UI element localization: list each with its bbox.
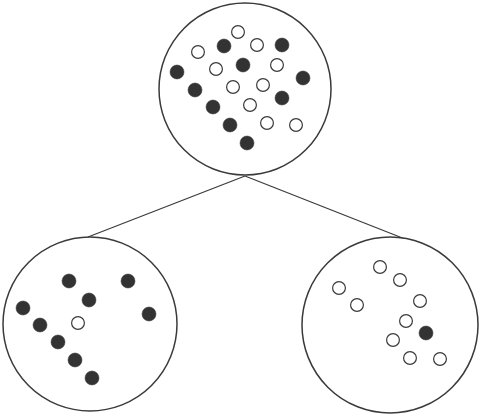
filled-point-icon <box>236 58 250 72</box>
node-right-child <box>302 237 478 413</box>
open-point-icon <box>72 317 85 330</box>
filled-point-icon <box>85 371 99 385</box>
open-point-icon <box>404 352 417 365</box>
open-point-icon <box>251 39 264 52</box>
node-root <box>159 3 331 175</box>
filled-point-icon <box>296 71 310 85</box>
open-point-icon <box>351 299 364 312</box>
open-point-icon <box>290 119 303 132</box>
open-point-icon <box>244 99 257 112</box>
filled-point-icon <box>217 39 231 53</box>
filled-point-icon <box>240 136 254 150</box>
node-boundary-circle <box>302 237 478 413</box>
open-point-icon <box>210 63 223 76</box>
filled-point-icon <box>223 118 237 132</box>
filled-point-icon <box>68 353 82 367</box>
tree-split-diagram <box>0 0 481 414</box>
filled-point-icon <box>62 274 76 288</box>
open-point-icon <box>261 117 274 130</box>
open-point-icon <box>374 261 387 274</box>
filled-point-icon <box>275 38 289 52</box>
open-point-icon <box>257 79 270 92</box>
open-point-icon <box>271 59 284 72</box>
node-left-child <box>3 237 177 411</box>
filled-point-icon <box>206 100 220 114</box>
open-point-icon <box>232 26 245 39</box>
filled-point-icon <box>82 293 96 307</box>
filled-point-icon <box>142 307 156 321</box>
filled-point-icon <box>33 318 47 332</box>
filled-point-icon <box>16 301 30 315</box>
filled-point-icon <box>419 326 433 340</box>
filled-point-icon <box>275 91 289 105</box>
open-point-icon <box>227 81 240 94</box>
open-point-icon <box>400 315 413 328</box>
open-point-icon <box>414 295 427 308</box>
open-point-icon <box>387 334 400 347</box>
filled-point-icon <box>121 274 135 288</box>
filled-point-icon <box>188 83 202 97</box>
open-point-icon <box>333 282 346 295</box>
open-point-icon <box>434 353 447 366</box>
filled-point-icon <box>170 65 184 79</box>
open-point-icon <box>394 274 407 287</box>
filled-point-icon <box>51 335 65 349</box>
open-point-icon <box>192 46 205 59</box>
